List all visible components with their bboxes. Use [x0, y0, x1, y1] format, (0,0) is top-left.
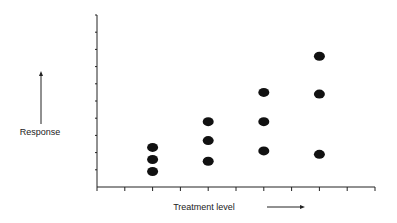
x-label-group: Treatment level — [173, 202, 305, 212]
data-point — [203, 117, 214, 126]
data-point — [147, 143, 158, 152]
data-point — [258, 117, 269, 126]
y-axis-label: Response — [20, 127, 61, 137]
data-point — [147, 155, 158, 164]
x-ticks — [97, 187, 375, 191]
data-point — [147, 167, 158, 176]
data-point — [258, 146, 269, 155]
up-arrowhead-icon — [39, 71, 43, 76]
data-point — [314, 90, 325, 99]
x-axis-label: Treatment level — [173, 202, 235, 212]
axes — [95, 15, 375, 191]
data-point — [203, 157, 214, 166]
data-point — [314, 52, 325, 61]
data-point — [203, 136, 214, 145]
data-points — [147, 52, 325, 176]
scatter-chart: Response Treatment level — [0, 0, 397, 223]
y-label-group: Response — [20, 71, 61, 137]
data-point — [258, 88, 269, 97]
right-arrowhead-icon — [300, 205, 305, 209]
data-point — [314, 150, 325, 159]
